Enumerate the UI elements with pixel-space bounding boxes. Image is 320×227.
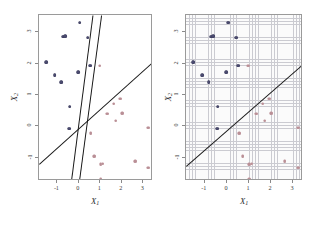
data-point-red-1	[112, 102, 115, 105]
y-tick-label-1: 0	[25, 124, 32, 127]
y-tick-label-4: 3	[172, 30, 179, 33]
y-tick-mark-4	[35, 31, 38, 32]
data-point-red-3	[255, 112, 258, 115]
data-point-blue-7	[225, 71, 228, 74]
data-point-blue-6	[53, 74, 56, 77]
data-point-blue-5	[89, 64, 92, 67]
data-point-red-5	[270, 112, 273, 115]
x-tick-mark-0	[204, 180, 205, 183]
y-tick-mark-0	[182, 157, 185, 158]
data-point-red-10	[250, 162, 253, 165]
data-point-red-10	[102, 162, 105, 165]
data-point-red-2	[268, 97, 271, 100]
y-tick-mark-3	[182, 63, 185, 64]
data-point-blue-9	[216, 105, 219, 108]
y-tick-label-1: 0	[172, 124, 179, 127]
y-tick-label-0: -1	[173, 154, 180, 159]
x-tick-mark-2	[248, 180, 249, 183]
data-point-red-7	[238, 132, 241, 135]
data-point-blue-4	[192, 61, 195, 64]
x-axis-title-left: X1	[91, 196, 99, 206]
data-point-blue-2	[212, 35, 215, 38]
y-tick-mark-0	[35, 157, 38, 158]
data-point-blue-9	[68, 105, 71, 108]
x-tick-label-3: 2	[269, 184, 272, 191]
data-point-red-4	[264, 119, 267, 122]
y-tick-label-3: 2	[172, 61, 179, 64]
x-tick-label-0: -1	[201, 184, 206, 191]
data-point-red-8	[241, 155, 244, 158]
data-point-red-6	[147, 126, 150, 129]
y-tick-label-0: -1	[26, 154, 33, 159]
panel-left-multiple-hyperplanes: -10123 -10123 X1 X2	[0, 0, 160, 227]
data-point-red-11	[283, 160, 286, 163]
y-tick-label-3: 2	[25, 61, 32, 64]
x-tick-mark-2	[99, 180, 100, 183]
data-point-blue-0	[227, 22, 230, 25]
data-point-red-12	[147, 166, 150, 169]
plot-area-left	[38, 14, 152, 180]
data-point-blue-5	[237, 64, 240, 67]
data-point-red-3	[106, 112, 109, 115]
data-point-red-2	[119, 97, 122, 100]
x-axis-title-right: X1	[240, 196, 248, 206]
y-axis-title-right: X2	[163, 93, 173, 101]
data-point-red-6	[297, 126, 300, 129]
x-tick-label-2: 1	[246, 184, 249, 191]
x-tick-label-4: 3	[291, 184, 294, 191]
y-tick-mark-2	[35, 94, 38, 95]
plot-area-right	[185, 14, 302, 180]
y-tick-mark-4	[182, 31, 185, 32]
data-point-blue-7	[77, 71, 80, 74]
x-tick-label-3: 2	[119, 184, 122, 191]
x-tick-label-1: 0	[224, 184, 227, 191]
data-point-blue-10	[216, 127, 219, 130]
data-point-blue-10	[68, 127, 71, 130]
x-tick-mark-3	[121, 180, 122, 183]
y-tick-label-2: 1	[25, 92, 32, 95]
hyperplane-3	[39, 62, 152, 165]
data-point-blue-8	[207, 81, 210, 84]
panel-right-single-hyperplane: -10123 -10123 X1 X2	[160, 0, 320, 227]
y-tick-mark-1	[182, 125, 185, 126]
data-point-red-4	[114, 119, 117, 122]
data-point-blue-6	[201, 74, 204, 77]
x-tick-label-0: -1	[54, 184, 59, 191]
data-point-red-8	[93, 155, 96, 158]
figure-root: -10123 -10123 X1 X2 -10123 -10123 X1 X2	[0, 0, 320, 227]
data-point-red-5	[121, 112, 124, 115]
data-point-blue-2	[64, 35, 67, 38]
x-tick-label-2: 1	[98, 184, 101, 191]
x-tick-label-1: 0	[76, 184, 79, 191]
x-tick-label-4: 3	[141, 184, 144, 191]
data-point-blue-4	[45, 61, 48, 64]
y-axis-title-left: X2	[9, 93, 19, 101]
data-point-red-1	[261, 102, 264, 105]
data-point-blue-0	[79, 22, 82, 25]
x-tick-mark-1	[78, 180, 79, 183]
x-tick-mark-4	[142, 180, 143, 183]
x-tick-mark-3	[270, 180, 271, 183]
y-tick-mark-2	[182, 94, 185, 95]
y-tick-mark-3	[35, 63, 38, 64]
data-point-red-0	[247, 64, 250, 67]
x-tick-mark-4	[292, 180, 293, 183]
data-point-red-0	[99, 64, 102, 67]
data-point-red-7	[89, 132, 92, 135]
x-tick-mark-0	[56, 180, 57, 183]
data-point-red-12	[297, 166, 300, 169]
y-tick-mark-1	[35, 125, 38, 126]
data-point-blue-8	[60, 81, 63, 84]
x-tick-mark-1	[226, 180, 227, 183]
data-point-blue-3	[235, 36, 238, 39]
data-point-red-11	[134, 160, 137, 163]
y-tick-label-4: 3	[25, 30, 32, 33]
